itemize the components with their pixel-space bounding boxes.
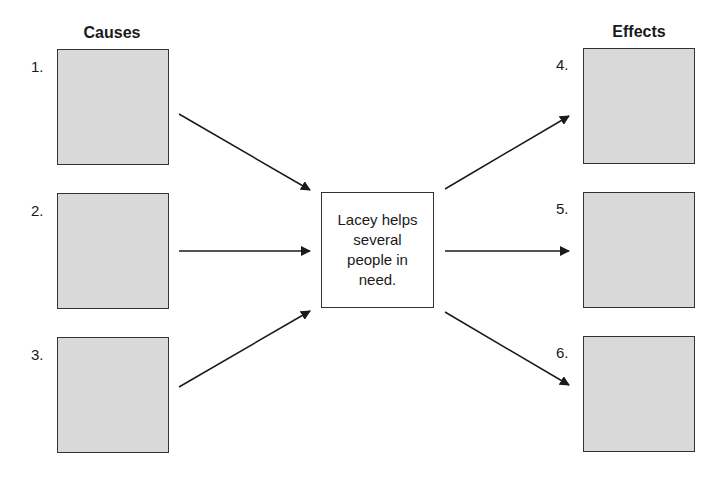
arrows-layer [0,0,721,479]
arrow-cause-1-icon [179,114,310,190]
arrow-effect-4-icon [445,116,569,189]
arrow-effect-6-icon [445,312,569,385]
arrow-cause-3-icon [179,311,310,387]
